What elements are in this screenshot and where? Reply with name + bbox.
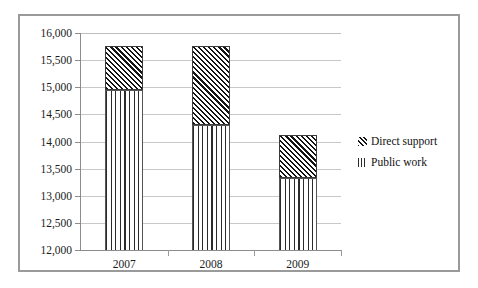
ytick-label-15500: 15,500 — [40, 54, 72, 66]
x-separator-3 — [341, 250, 342, 256]
bar-group-2009 — [254, 33, 341, 250]
bar-segment-public-work-2009 — [279, 178, 317, 250]
bar-segment-direct-support-2007 — [105, 46, 143, 91]
bar-group-2008 — [168, 33, 255, 250]
bar-segment-direct-support-2008 — [192, 46, 230, 126]
ytick-label-14000: 14,000 — [40, 136, 72, 148]
bar-group-2007 — [81, 33, 168, 250]
xtick-label-2007: 2007 — [81, 258, 168, 270]
ytick-label-13500: 13,500 — [40, 163, 72, 175]
ytick-label-12000: 12,000 — [40, 244, 72, 256]
chart-legend: Direct support Public work — [358, 134, 454, 176]
plot-area: 16,000 15,500 15,000 14,500 14,000 13,50… — [80, 33, 341, 251]
ytick-label-14500: 14,500 — [40, 108, 72, 120]
ytick-12000 — [75, 250, 81, 251]
diagonal-hatch-swatch-icon — [358, 137, 367, 146]
ytick-label-16000: 16,000 — [40, 27, 72, 39]
legend-label-public-work: Public work — [371, 156, 427, 168]
ytick-label-12500: 12,500 — [40, 217, 72, 229]
xtick-label-2009: 2009 — [254, 258, 341, 270]
bar-segment-public-work-2008 — [192, 125, 230, 250]
x-separator-2 — [254, 250, 255, 256]
vertical-hatch-swatch-icon — [358, 158, 367, 167]
xtick-label-2008: 2008 — [168, 258, 255, 270]
ytick-label-15000: 15,000 — [40, 81, 72, 93]
bar-segment-public-work-2007 — [105, 90, 143, 250]
legend-label-direct-support: Direct support — [371, 135, 437, 147]
legend-item-public-work: Public work — [358, 155, 454, 169]
legend-item-direct-support: Direct support — [358, 134, 454, 148]
ytick-label-13000: 13,000 — [40, 190, 72, 202]
x-separator-1 — [168, 250, 169, 256]
chart-figure: 16,000 15,500 15,000 14,500 14,000 13,50… — [18, 14, 460, 272]
bar-segment-direct-support-2009 — [279, 135, 317, 178]
